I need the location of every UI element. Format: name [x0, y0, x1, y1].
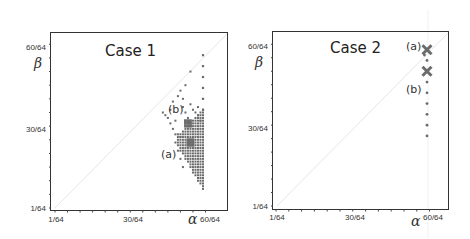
- annotation-a: (a): [161, 148, 176, 161]
- y-tick-1: 1/64: [30, 204, 46, 213]
- y-tick-30: 30/64: [248, 124, 269, 133]
- x-tick-30: 30/64: [123, 215, 144, 224]
- y-tick-60: 60/64: [26, 43, 47, 52]
- annotation-b: (b): [168, 103, 184, 116]
- x-tick-1: 1/64: [269, 213, 285, 222]
- chart-title: Case 1: [105, 42, 156, 60]
- chart-case-1: 60/64 30/64 1/64 β 1/64 30/64 60/64 α Ca…: [0, 0, 235, 239]
- y-tick-60: 60/64: [248, 42, 269, 51]
- annotation-b: (b): [406, 83, 422, 96]
- plot-case-1: 60/64 30/64 1/64 β 1/64 30/64 60/64 α Ca…: [0, 0, 235, 239]
- x-axis-label: α: [411, 213, 421, 229]
- x-tick-30: 30/64: [345, 213, 366, 222]
- y-tick-1: 1/64: [252, 202, 268, 211]
- data-points: [423, 45, 432, 137]
- y-axis-label: β: [33, 55, 42, 71]
- y-tick-30: 30/64: [26, 125, 47, 134]
- plot-frame: [273, 32, 449, 210]
- x-axis-label: α: [188, 211, 198, 227]
- data-points: [162, 54, 204, 190]
- x-tick-1: 1/64: [48, 215, 64, 224]
- plot-case-2: 60/64 30/64 1/64 β 1/64 30/64 60/64 α Ca…: [235, 0, 470, 239]
- x-tick-60: 60/64: [200, 215, 221, 224]
- chart-title: Case 2: [330, 39, 381, 57]
- x-tick-60: 60/64: [423, 213, 444, 222]
- chart-case-2: 60/64 30/64 1/64 β 1/64 30/64 60/64 α Ca…: [235, 0, 470, 239]
- diagonal-line: [277, 33, 448, 206]
- annotation-a: (a): [406, 40, 421, 53]
- y-axis-label: β: [254, 54, 263, 70]
